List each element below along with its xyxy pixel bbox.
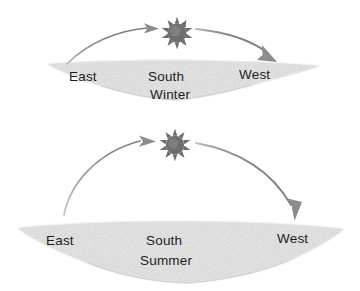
label-east-winter: East xyxy=(69,69,97,84)
sun-path-figure: East South West Winter xyxy=(0,0,360,291)
label-season-summer: Summer xyxy=(140,253,193,268)
label-west-summer: West xyxy=(277,231,308,246)
arc-rising-segment xyxy=(67,28,148,64)
sun-disc-highlight xyxy=(168,138,178,148)
arrow-rising-head-summer xyxy=(139,136,156,147)
arc-setting-segment xyxy=(196,143,291,205)
label-west-winter: West xyxy=(239,67,270,82)
panel-summer: East South West Summer xyxy=(18,129,344,283)
arc-setting-segment xyxy=(196,29,268,53)
arc-rising-segment xyxy=(64,141,140,215)
label-east-summer: East xyxy=(46,233,74,248)
label-south-summer: South xyxy=(146,233,182,248)
label-south-winter: South xyxy=(148,69,184,84)
sun-disc-highlight xyxy=(170,26,181,37)
diagram-canvas: East South West Winter xyxy=(0,0,360,291)
sun-icon xyxy=(161,17,193,49)
label-season-winter: Winter xyxy=(150,87,191,102)
sun-icon xyxy=(159,129,191,161)
panel-winter: East South West Winter xyxy=(48,17,320,102)
